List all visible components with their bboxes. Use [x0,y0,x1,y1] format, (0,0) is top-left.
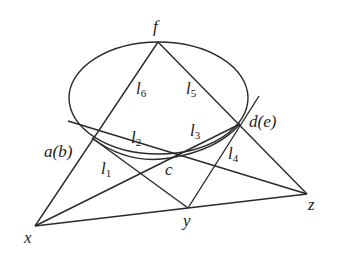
line-label-l6: l6 [136,80,146,99]
line-label-l2: l2 [131,129,141,148]
point-label-x: x [24,229,32,246]
line-label-l4: l4 [228,145,238,164]
ellipse [69,42,248,154]
line-label-l5: l5 [186,80,196,99]
diagram-canvas [0,0,338,265]
point-label-d: d(e) [249,113,276,130]
point-label-c: c [165,161,173,178]
point-label-y: y [183,212,191,229]
point-label-z: z [308,196,315,213]
line-label-l3: l3 [190,122,200,141]
line-xz [35,194,307,226]
conic-diagram: f a(b) d(e) c x y z l6 l5 l2 l3 l4 l1 [0,0,338,265]
line-label-l1: l1 [101,160,111,179]
point-label-a: a(b) [44,143,72,160]
point-label-f: f [153,18,158,35]
